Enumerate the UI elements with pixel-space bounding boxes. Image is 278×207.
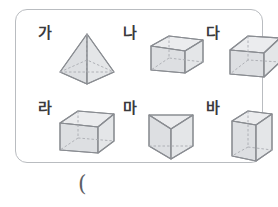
pyramid-face-right bbox=[87, 34, 114, 84]
shape-cell-ma[interactable]: 마 bbox=[123, 101, 205, 173]
shape-cell-na[interactable]: 나 bbox=[123, 26, 205, 98]
worksheet: 가 나 bbox=[0, 0, 278, 207]
shape-cell-ba[interactable]: 바 bbox=[206, 101, 278, 173]
shape-label-ba: 바 bbox=[206, 101, 220, 116]
shape-label-ma: 마 bbox=[123, 101, 137, 116]
shape-label-da: 다 bbox=[206, 26, 220, 41]
answer-row: ( bbox=[15, 170, 263, 202]
rectangular-prism-tall-figure bbox=[222, 103, 278, 171]
shape-label-na: 나 bbox=[123, 26, 137, 41]
cube-front-face bbox=[230, 50, 264, 77]
cube-figure bbox=[222, 28, 278, 96]
rectangular-prism-wide-figure bbox=[139, 28, 205, 96]
rectangular-prism-figure bbox=[54, 103, 120, 171]
answer-parenthesis: ( bbox=[78, 172, 87, 196]
tall-front-face bbox=[232, 121, 256, 161]
shape-cell-ga[interactable]: 가 bbox=[38, 26, 120, 98]
shape-label-ga: 가 bbox=[38, 26, 52, 41]
shape-cell-da[interactable]: 다 bbox=[206, 26, 278, 98]
pyramid-face-left bbox=[60, 34, 87, 84]
shape-label-ra: 라 bbox=[38, 101, 52, 116]
shapes-frame: 가 나 bbox=[15, 9, 263, 163]
square-pyramid-figure bbox=[54, 28, 120, 96]
shape-cell-ra[interactable]: 라 bbox=[38, 101, 120, 173]
triangular-prism-figure bbox=[139, 103, 205, 171]
